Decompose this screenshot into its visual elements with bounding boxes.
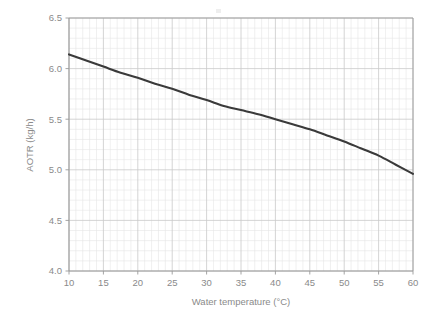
x-tick-label: 55: [373, 277, 384, 288]
y-tick-label: 5.5: [49, 114, 62, 125]
y-tick-label: 4.0: [49, 265, 62, 276]
y-tick-label: 4.5: [49, 215, 62, 226]
x-tick-label: 30: [201, 277, 212, 288]
x-axis-tick-labels: 1015202530354045505560: [64, 277, 419, 288]
x-tick-label: 40: [270, 277, 281, 288]
y-tick-label: 6.0: [49, 63, 62, 74]
y-tick-label: 6.5: [49, 12, 62, 23]
chart-figure: 1015202530354045505560 4.04.55.05.56.06.…: [0, 0, 437, 325]
x-tick-label: 50: [339, 277, 350, 288]
x-tick-label: 60: [408, 277, 419, 288]
x-tick-label: 10: [64, 277, 75, 288]
y-axis-tick-labels: 4.04.55.05.56.06.5: [49, 12, 62, 276]
x-tick-label: 20: [133, 277, 144, 288]
x-tick-label: 15: [98, 277, 109, 288]
scan-artifact: [216, 9, 221, 13]
x-axis-title: Water temperature (°C): [192, 296, 290, 307]
x-tick-label: 35: [236, 277, 247, 288]
x-tick-label: 45: [305, 277, 316, 288]
x-tick-label: 25: [167, 277, 178, 288]
y-tick-label: 5.0: [49, 164, 62, 175]
y-axis-title: AOTR (kg/h): [24, 118, 35, 171]
chart-canvas: 1015202530354045505560 4.04.55.05.56.06.…: [0, 0, 437, 325]
